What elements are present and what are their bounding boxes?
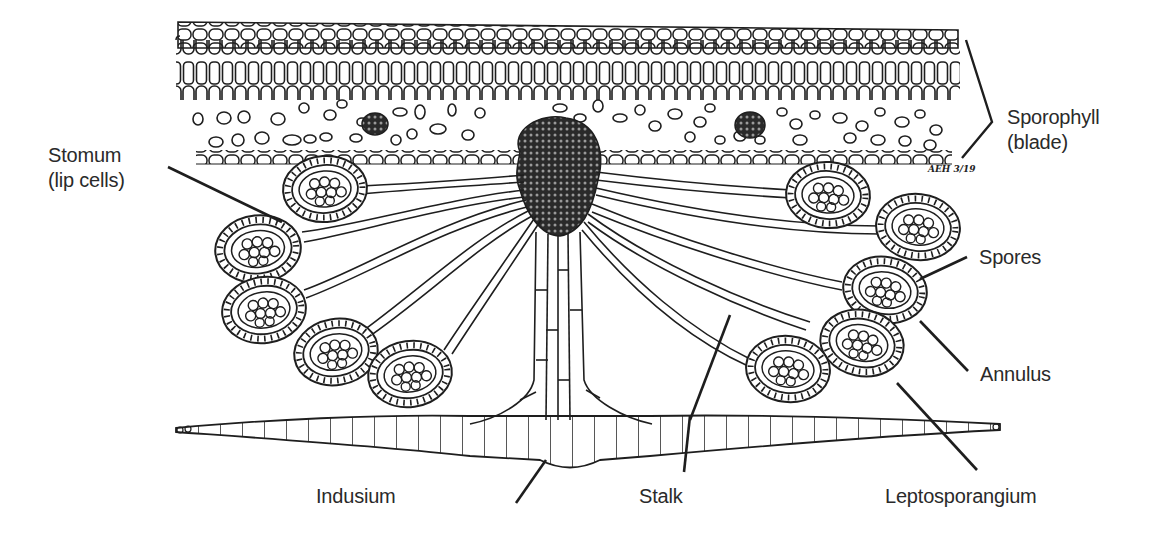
fern-sorus-illustration	[0, 0, 1166, 544]
diagram-canvas: AEH 3/19 Sporophyll (blade) Stomum (lip …	[0, 0, 1166, 544]
annulus-leader-line	[920, 321, 968, 371]
label-sporophyll-line1: Sporophyll	[1007, 105, 1100, 130]
label-leptosporangium: Leptosporangium	[885, 484, 1037, 509]
label-spores: Spores	[979, 245, 1041, 270]
artist-signature: AEH 3/19	[928, 164, 976, 174]
label-stomum: Stomum (lip cells)	[48, 143, 125, 193]
indusium	[176, 415, 1000, 467]
central-column	[470, 232, 652, 424]
label-indusium: Indusium	[316, 484, 396, 509]
label-stomum-line2: (lip cells)	[48, 168, 125, 193]
label-sporophyll-line2: (blade)	[1007, 130, 1100, 155]
stomum-leader-line	[168, 167, 282, 222]
label-sporophyll: Sporophyll (blade)	[1007, 105, 1100, 155]
indusium-leader-line	[516, 460, 546, 503]
label-annulus: Annulus	[980, 362, 1051, 387]
label-stalk: Stalk	[639, 484, 682, 509]
label-stomum-line1: Stomum	[48, 143, 125, 168]
